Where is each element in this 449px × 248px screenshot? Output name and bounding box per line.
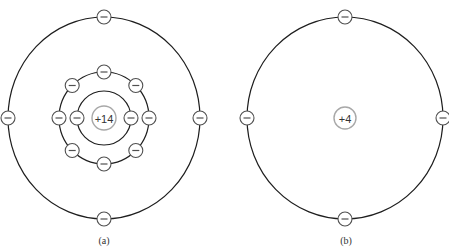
electron-icon: [142, 111, 156, 125]
electron-icon: [97, 212, 111, 226]
nucleus-charge-label: +4: [339, 113, 352, 125]
atom-diagram: +14 (a) +4 (b): [0, 0, 449, 248]
panel-caption-a: (a): [98, 235, 109, 247]
electron-icon: [193, 111, 207, 125]
electron-icon: [338, 10, 352, 24]
electron-icon: [52, 111, 66, 125]
electron-icon: [129, 79, 143, 93]
electron-icon: [97, 65, 111, 79]
electron-icon: [240, 111, 254, 125]
electron-icon: [129, 144, 143, 158]
electron-icon: [65, 79, 79, 93]
electron-icon: [97, 10, 111, 24]
electron-icon: [124, 111, 138, 125]
atom-panel-b: +4 (b): [240, 10, 449, 247]
electron-icon: [1, 111, 15, 125]
electron-icon: [436, 111, 449, 125]
electron-icon: [338, 212, 352, 226]
electron-icon: [70, 111, 84, 125]
panel-caption-b: (b): [340, 235, 352, 247]
nucleus: +14: [92, 106, 116, 130]
atom-panel-a: +14 (a): [1, 10, 207, 247]
nucleus: +4: [334, 107, 356, 129]
electron-icon: [97, 157, 111, 171]
electron-icon: [65, 144, 79, 158]
nucleus-charge-label: +14: [95, 113, 114, 125]
